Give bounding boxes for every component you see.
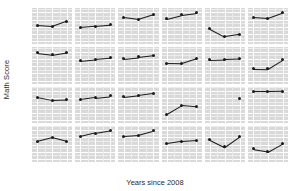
line-segment bbox=[80, 98, 95, 101]
data-point bbox=[195, 11, 198, 14]
facet-panel-r4-c2: 012 bbox=[75, 126, 115, 162]
panel-grid: 6406456506556606406456506556606406456506… bbox=[32, 8, 288, 162]
data-point bbox=[51, 53, 54, 56]
data-series bbox=[75, 8, 115, 44]
facet-panel-r1-c2 bbox=[75, 8, 115, 44]
line-segment bbox=[37, 25, 52, 27]
data-series bbox=[118, 87, 158, 123]
data-point bbox=[180, 62, 183, 65]
data-point bbox=[180, 104, 183, 107]
data-point bbox=[36, 96, 39, 99]
facet-panel-r1-c3 bbox=[118, 8, 158, 44]
data-point bbox=[281, 142, 284, 145]
data-series bbox=[248, 8, 288, 44]
data-point bbox=[281, 58, 284, 61]
data-point bbox=[152, 13, 155, 16]
facet-panel-r3-c6 bbox=[248, 87, 288, 123]
line-segment bbox=[167, 15, 182, 20]
data-series bbox=[118, 126, 158, 162]
line-segment bbox=[95, 25, 110, 27]
data-series bbox=[32, 126, 72, 162]
data-point bbox=[238, 135, 241, 138]
data-point bbox=[79, 135, 82, 138]
data-series bbox=[205, 8, 245, 44]
facet-panel-r4-c1: 640645650655660012 bbox=[32, 126, 72, 162]
data-series bbox=[32, 8, 72, 44]
data-point bbox=[122, 135, 125, 138]
facet-panel-r4-c4: 012 bbox=[162, 126, 202, 162]
data-point bbox=[79, 98, 82, 101]
line-segment bbox=[123, 57, 138, 60]
line-segment bbox=[268, 60, 283, 70]
data-point bbox=[152, 54, 155, 57]
data-point bbox=[65, 140, 68, 143]
facet-panel-r4-c5: 012 bbox=[205, 126, 245, 162]
data-point bbox=[94, 25, 97, 28]
data-point bbox=[65, 20, 68, 23]
data-point bbox=[165, 142, 168, 145]
data-point bbox=[266, 67, 269, 70]
data-point bbox=[165, 62, 168, 65]
data-point bbox=[281, 11, 284, 14]
facet-panel-r2-c2 bbox=[75, 47, 115, 83]
data-point bbox=[94, 58, 97, 61]
data-series bbox=[32, 47, 72, 83]
data-point bbox=[252, 67, 255, 70]
facet-panel-r2-c6 bbox=[248, 47, 288, 83]
data-point bbox=[137, 94, 140, 97]
line-segment bbox=[224, 137, 239, 148]
data-point bbox=[65, 98, 68, 101]
facet-panel-r3-c4 bbox=[162, 87, 202, 123]
facet-panel-r3-c2 bbox=[75, 87, 115, 123]
facet-panel-r2-c4 bbox=[162, 47, 202, 83]
y-axis-title: Math Score bbox=[1, 0, 13, 158]
data-point bbox=[252, 90, 255, 93]
facet-panel-r4-c6: 012 bbox=[248, 126, 288, 162]
facet-panel-r1-c4 bbox=[162, 8, 202, 44]
data-point bbox=[122, 16, 125, 19]
data-series bbox=[248, 87, 288, 123]
data-point bbox=[281, 90, 284, 93]
data-point bbox=[51, 99, 54, 102]
facet-panel-r2-c3 bbox=[118, 47, 158, 83]
x-axis-title-text: Years since 2008 bbox=[126, 178, 183, 187]
data-point bbox=[36, 140, 39, 143]
facet-panel-r1-c6 bbox=[248, 8, 288, 44]
data-point bbox=[51, 25, 54, 28]
data-point bbox=[51, 136, 54, 139]
y-axis-title-text: Math Score bbox=[3, 59, 12, 98]
line-segment bbox=[138, 131, 153, 136]
data-series bbox=[75, 47, 115, 83]
data-series bbox=[205, 47, 245, 83]
line-segment bbox=[182, 13, 197, 16]
data-point bbox=[195, 139, 198, 142]
line-segment bbox=[37, 97, 52, 101]
data-series bbox=[162, 126, 202, 162]
data-series bbox=[248, 126, 288, 162]
data-point bbox=[238, 33, 241, 36]
facet-panel-r3-c5 bbox=[205, 87, 245, 123]
data-point bbox=[152, 92, 155, 95]
data-series bbox=[205, 126, 245, 162]
data-series bbox=[118, 8, 158, 44]
x-axis-title: Years since 2008 bbox=[22, 176, 288, 188]
data-series bbox=[162, 47, 202, 83]
line-segment bbox=[37, 137, 52, 142]
facet-panel-r3-c3 bbox=[118, 87, 158, 123]
facet-panel-r1-c5 bbox=[205, 8, 245, 44]
facet-panel-r2-c1: 640645650655660 bbox=[32, 47, 72, 83]
data-point bbox=[79, 26, 82, 29]
data-series bbox=[75, 87, 115, 123]
facet-panel-r3-c1: 640645650655660 bbox=[32, 87, 72, 123]
data-point bbox=[109, 129, 112, 132]
data-series bbox=[75, 126, 115, 162]
data-point bbox=[65, 51, 68, 54]
data-point bbox=[180, 140, 183, 143]
data-series bbox=[162, 87, 202, 123]
data-series bbox=[118, 47, 158, 83]
data-series bbox=[205, 87, 245, 123]
faceted-line-chart-figure: Math Score 64064565065566064064565065566… bbox=[0, 0, 291, 191]
data-series bbox=[162, 8, 202, 44]
data-point bbox=[137, 18, 140, 21]
line-segment bbox=[138, 15, 153, 21]
